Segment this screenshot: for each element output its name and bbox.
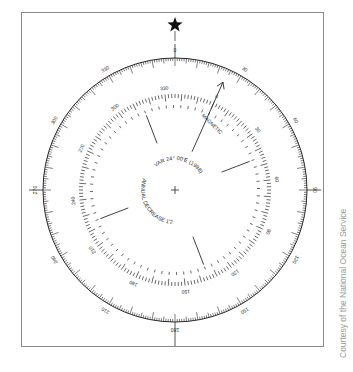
- inner-spoke: [100, 208, 128, 219]
- inner-spoke: [146, 115, 157, 143]
- north-star-icon: [167, 17, 182, 32]
- inner-ring-label: 330: [160, 84, 169, 91]
- inner-spoke: [222, 161, 250, 172]
- inner-ring-label: 90: [265, 228, 273, 236]
- outer-ring-label: 330: [100, 64, 110, 73]
- outer-ring-label: 270: [32, 186, 38, 195]
- inner-ring-label: 300: [110, 102, 120, 112]
- outer-ring-label: 120: [291, 255, 300, 265]
- outer-ring-label: 240: [49, 255, 58, 265]
- outer-ring-label: 300: [49, 115, 58, 125]
- image-credit: Courtesy of the National Ocean Service: [338, 209, 348, 358]
- inner-ring-label: 210: [87, 245, 97, 255]
- inner-ring-label: 180: [128, 279, 138, 288]
- outer-ring-label: 150: [240, 306, 250, 315]
- outer-ring-label: 180: [171, 327, 180, 333]
- outer-ring-label: 30: [241, 65, 249, 73]
- inner-ring-label: 150: [181, 289, 190, 296]
- outer-ring-label: 0: [174, 47, 177, 53]
- inner-ring-label: 30: [254, 126, 262, 134]
- inner-spoke: [193, 237, 204, 265]
- annual-change-text: ANNUAL DECREASE 1'2: [140, 178, 173, 225]
- inner-ring-label: 60: [274, 176, 281, 182]
- inner-ring-label: 240: [69, 196, 76, 205]
- outer-ring-label: 60: [292, 116, 300, 124]
- outer-ring-label: 210: [100, 306, 110, 315]
- variation-text: VAR 24° 00'E (1998): [153, 155, 205, 174]
- inner-ring-label: 120: [230, 268, 240, 278]
- compass-rose: 0306090120150180210240270300330030609012…: [0, 0, 353, 372]
- inner-ring-label: 270: [77, 143, 86, 153]
- outer-ring-label: 90: [312, 187, 318, 193]
